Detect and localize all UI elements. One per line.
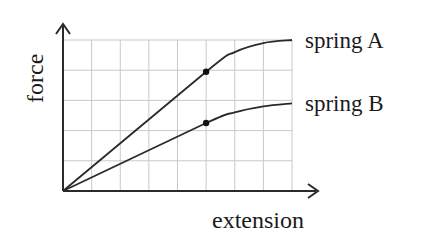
force-extension-chart: spring Aspring B extension force <box>0 0 422 238</box>
axes <box>56 24 318 198</box>
limit-point-marker <box>203 120 209 126</box>
series-labels: spring Aspring B <box>305 28 384 116</box>
y-axis-label: force <box>22 54 48 103</box>
series-label-spring-b: spring B <box>305 91 384 116</box>
limit-point-marker <box>203 69 209 75</box>
x-axis-label: extension <box>212 207 304 233</box>
series-label-spring-a: spring A <box>305 28 384 53</box>
grid-lines <box>63 40 292 191</box>
